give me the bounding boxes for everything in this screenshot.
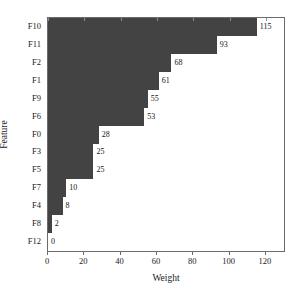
bar-F1 — [48, 72, 159, 90]
y-tick-F9: F9 — [32, 93, 41, 102]
bar-value-label: 61 — [162, 77, 170, 85]
x-tick-label-100: 100 — [222, 257, 235, 266]
x-tick-mark — [47, 252, 48, 255]
y-tick-F1: F1 — [32, 75, 41, 84]
bar-F4 — [48, 197, 63, 215]
bar-F9 — [48, 90, 148, 108]
x-tick-mark-top — [84, 18, 85, 21]
y-tick-F8: F8 — [32, 219, 41, 228]
x-tick-mark — [192, 252, 193, 255]
x-tick-mark-top — [121, 18, 122, 21]
bar-value-label: 8 — [66, 202, 70, 210]
bar-F11 — [48, 36, 217, 54]
x-tick-mark-top — [230, 18, 231, 21]
bar-row: 68 — [48, 54, 284, 72]
bar-row: 53 — [48, 108, 284, 126]
y-tick-F12: F12 — [28, 237, 41, 246]
y-tick-F10: F10 — [28, 22, 41, 31]
x-tick-mark-top — [193, 18, 194, 21]
bar-value-label: 10 — [69, 184, 77, 192]
x-tick-label-40: 40 — [115, 257, 124, 266]
bar-value-label: 55 — [151, 95, 159, 103]
x-axis-title: Weight — [47, 274, 285, 284]
bar-value-label: 28 — [102, 131, 110, 139]
x-tick-mark — [265, 252, 266, 255]
bar-row: 93 — [48, 36, 284, 54]
bar-F7 — [48, 179, 66, 197]
bar-value-label: 68 — [174, 59, 182, 67]
x-tick-label-0: 0 — [45, 257, 49, 266]
x-tick-mark-top — [266, 18, 267, 21]
y-tick-F0: F0 — [32, 129, 41, 138]
bar-row: 28 — [48, 126, 284, 144]
y-tick-F7: F7 — [32, 183, 41, 192]
plot-inner-surface: 115936861555328252510820 — [48, 18, 284, 251]
y-tick-F6: F6 — [32, 111, 41, 120]
bar-value-label: 0 — [51, 238, 55, 246]
bar-row: 55 — [48, 90, 284, 108]
x-tick-mark — [120, 252, 121, 255]
bar-row: 61 — [48, 72, 284, 90]
x-tick-mark-top — [48, 18, 49, 21]
bar-value-label: 115 — [260, 23, 272, 31]
bar-F5 — [48, 161, 93, 179]
bar-row: 8 — [48, 197, 284, 215]
x-tick-label-80: 80 — [188, 257, 197, 266]
y-tick-F4: F4 — [32, 201, 41, 210]
bar-row: 2 — [48, 215, 284, 233]
bar-value-label: 2 — [55, 220, 59, 228]
bar-F8 — [48, 215, 52, 233]
y-axis-title: Feature — [0, 17, 14, 252]
bar-value-label: 25 — [96, 148, 104, 156]
x-tick-label-60: 60 — [152, 257, 161, 266]
bar-row: 10 — [48, 179, 284, 197]
x-tick-mark — [229, 252, 230, 255]
y-tick-F11: F11 — [28, 40, 41, 49]
y-tick-F3: F3 — [32, 147, 41, 156]
bar-F6 — [48, 108, 144, 126]
x-tick-label-120: 120 — [258, 257, 271, 266]
plot-area: 115936861555328252510820 — [47, 17, 285, 252]
bar-F2 — [48, 54, 171, 72]
bar-F0 — [48, 126, 99, 144]
bar-value-label: 25 — [96, 166, 104, 174]
x-tick-mark — [83, 252, 84, 255]
bar-value-label: 93 — [220, 41, 228, 49]
x-axis-tick-labels: 020406080100120 — [47, 252, 285, 274]
x-tick-mark — [156, 252, 157, 255]
bar-chart: F10F11F2F1F9F6F0F3F5F7F4F8F12 1159368615… — [0, 0, 296, 297]
y-tick-F2: F2 — [32, 58, 41, 67]
x-tick-mark-top — [157, 18, 158, 21]
bar-row: 25 — [48, 161, 284, 179]
bar-row: 0 — [48, 233, 284, 251]
bar-value-label: 53 — [147, 113, 155, 121]
bar-row: 25 — [48, 143, 284, 161]
bar-F10 — [48, 18, 257, 36]
y-tick-F5: F5 — [32, 165, 41, 174]
bar-F3 — [48, 143, 93, 161]
x-tick-label-20: 20 — [79, 257, 88, 266]
